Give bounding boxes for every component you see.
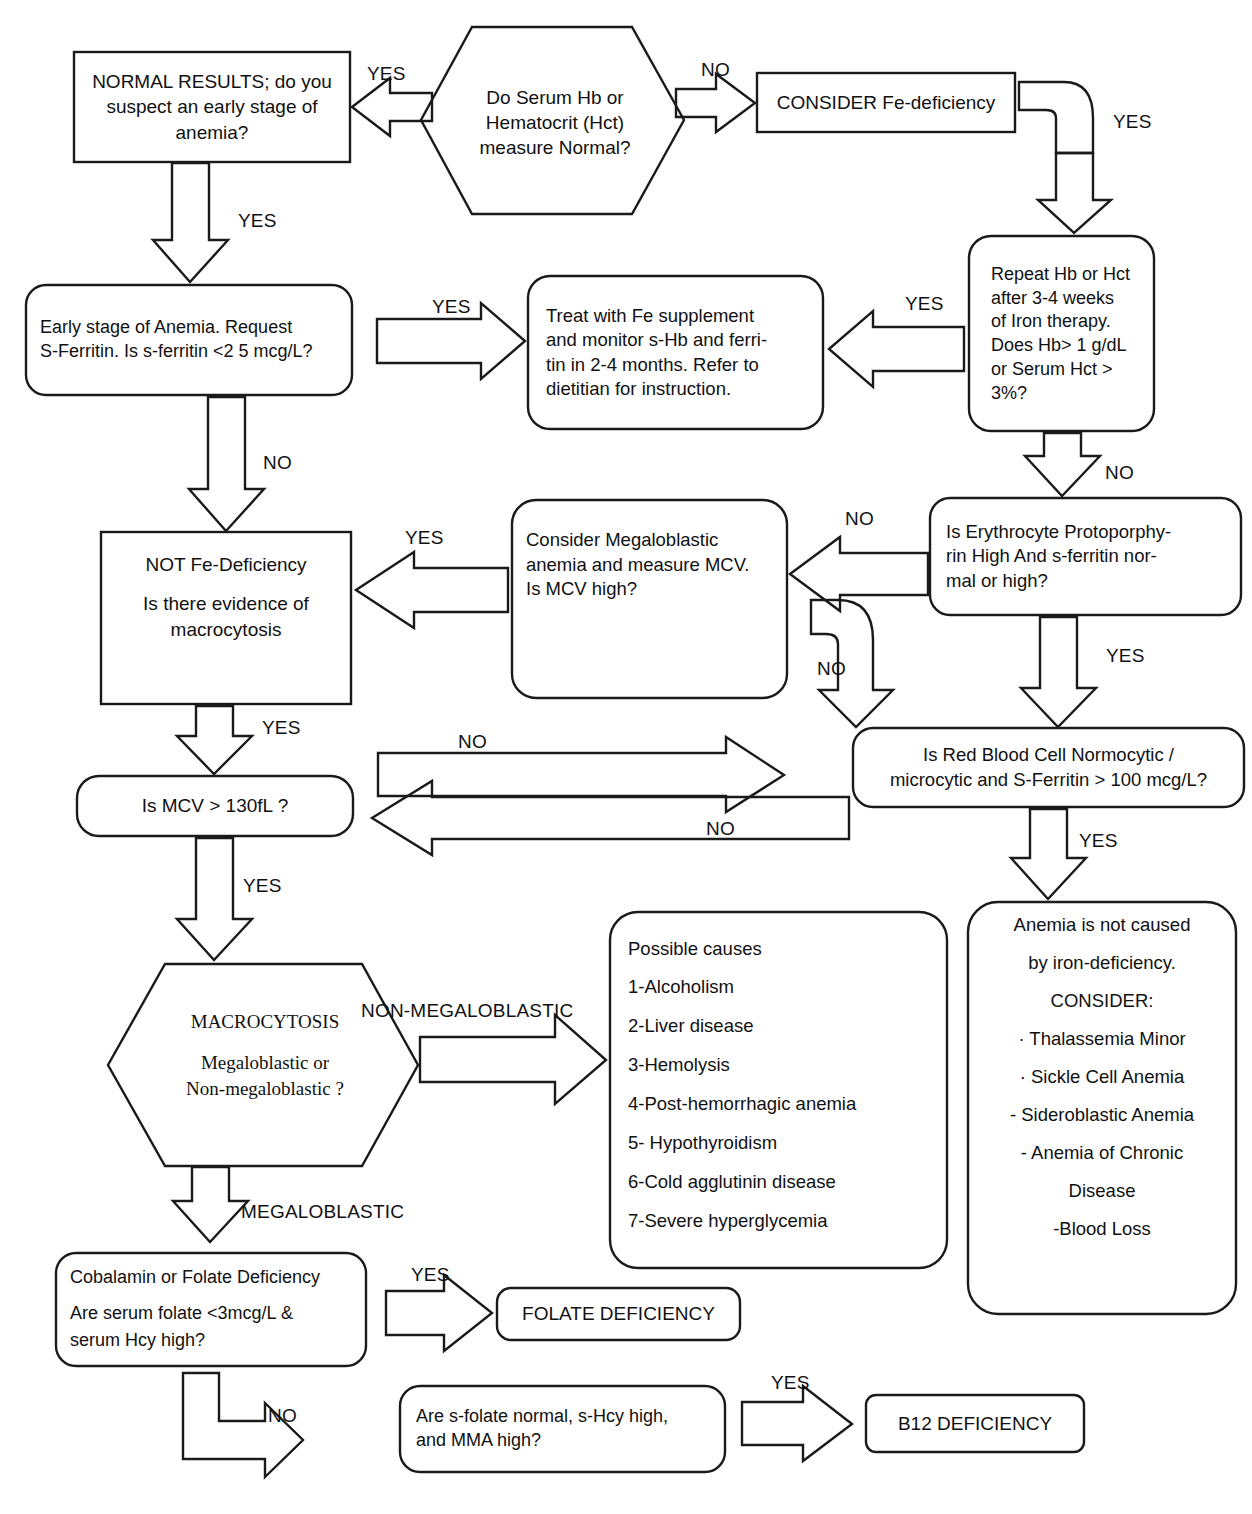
- not-iron-item-3: - Sideroblastic Anemia: [976, 1096, 1228, 1134]
- serum-hb-line-1: Do Serum Hb or: [448, 85, 662, 110]
- treat-fe-line-4: dietitian for instruction.: [546, 377, 815, 401]
- node-normal-results[interactable]: NORMAL RESULTS; do you suspect an early …: [74, 52, 350, 162]
- erythro-line-2: rin High And s-ferritin nor-: [946, 544, 1233, 568]
- cobalamin-line-3: Are serum folate <3mcg/L &: [70, 1300, 358, 1328]
- not-fe-line-1: NOT Fe-Deficiency: [109, 552, 343, 577]
- node-rbc-normocytic[interactable]: Is Red Blood Cell Normocytic / microcyti…: [853, 728, 1244, 807]
- erythro-line-3: mal or high?: [946, 569, 1233, 593]
- edge-label-rbc-to-mcv: NO: [706, 818, 735, 840]
- possible-causes-item-3: 3-Hemolysis: [628, 1046, 939, 1085]
- normal-results-line-1: NORMAL RESULTS; do you: [82, 69, 342, 94]
- consider-fe-line-1: CONSIDER Fe-deficiency: [765, 90, 1007, 115]
- edge-label-megalo-down-to-rbc: NO: [817, 658, 846, 680]
- repeat-hb-line-6: 3%?: [991, 382, 1139, 406]
- not-fe-line-4: macrocytosis: [109, 617, 343, 642]
- node-not-fe-deficiency[interactable]: NOT Fe-Deficiency Is there evidence of m…: [101, 532, 351, 662]
- not-iron-item-5: -Blood Loss: [976, 1210, 1228, 1248]
- arrow-macro-to-causes: [420, 1015, 606, 1104]
- not-iron-item-1: · Thalassemia Minor: [976, 1020, 1228, 1058]
- macrocytosis-line-3: Megaloblastic or: [128, 1050, 402, 1075]
- node-serum-hb[interactable]: Do Serum Hb or Hematocrit (Hct) measure …: [440, 45, 670, 200]
- edge-label-cobalamin-to-sfolate: NO: [268, 1405, 297, 1427]
- sfolate-line-1: Are s-folate normal, s-Hcy high,: [416, 1405, 717, 1429]
- possible-causes-item-1: 1-Alcoholism: [628, 968, 939, 1007]
- possible-causes-item-7: 7-Severe hyperglycemia: [628, 1202, 939, 1241]
- not-iron-line-1: Anemia is not caused: [976, 906, 1228, 944]
- repeat-hb-line-4: Does Hb> 1 g/dL: [991, 334, 1139, 358]
- consider-megalo-line-2: anemia and measure MCV.: [526, 553, 779, 577]
- arrow-macro-to-cobalamin: [173, 1167, 248, 1242]
- node-sfolate[interactable]: Are s-folate normal, s-Hcy high, and MMA…: [400, 1386, 725, 1472]
- node-not-iron-deficiency[interactable]: Anemia is not caused by iron-deficiency.…: [968, 912, 1236, 1242]
- edge-label-repeat-to-erythro: NO: [1105, 462, 1134, 484]
- node-folate-deficiency[interactable]: FOLATE DEFICIENCY: [497, 1288, 740, 1340]
- possible-causes-title: Possible causes: [628, 930, 939, 969]
- possible-causes-item-6: 6-Cold agglutinin disease: [628, 1163, 939, 1202]
- sfolate-line-2: and MMA high?: [416, 1429, 717, 1453]
- edge-label-hex-to-normal: YES: [367, 63, 406, 85]
- node-possible-causes[interactable]: Possible causes 1-Alcoholism 2-Liver dis…: [610, 920, 947, 1250]
- edge-label-erythro-to-megalo: NO: [845, 508, 874, 530]
- edge-label-rbc-to-notiron: YES: [1079, 830, 1118, 852]
- arrow-considerfe-to-repeat-head: [1038, 153, 1111, 233]
- repeat-hb-line-5: or Serum Hct >: [991, 358, 1139, 382]
- edge-label-mcv-to-macro: YES: [243, 875, 282, 897]
- edge-label-repeat-to-treat: YES: [905, 293, 944, 315]
- edge-label-mcv-to-rbc: NO: [458, 731, 487, 753]
- cobalamin-line-4: serum Hcy high?: [70, 1327, 358, 1355]
- arrow-mcv-to-rbc: [378, 737, 784, 812]
- edge-label-cobalamin-to-folate: YES: [411, 1264, 450, 1286]
- serum-hb-line-3: measure Normal?: [448, 135, 662, 160]
- edge-label-sfolate-to-b12: YES: [771, 1372, 810, 1394]
- not-iron-item-4b: Disease: [976, 1172, 1228, 1210]
- node-repeat-hb[interactable]: Repeat Hb or Hct after 3-4 weeks of Iron…: [975, 240, 1147, 428]
- arrow-hex-to-normal: [352, 78, 432, 136]
- arrow-considerfe-to-repeat: [1019, 82, 1093, 153]
- arrow-early-to-notfe: [189, 397, 264, 531]
- arrow-repeat-to-erythro: [1025, 433, 1100, 496]
- not-fe-spacer: [109, 577, 343, 591]
- macrocytosis-line-4: Non-megaloblastic ?: [128, 1076, 402, 1101]
- node-cobalamin-folate[interactable]: Cobalamin or Folate Deficiency Are serum…: [56, 1253, 366, 1366]
- node-erythrocyte[interactable]: Is Erythrocyte Protoporphy- rin High And…: [930, 498, 1241, 615]
- edge-label-considerfe-to-repeat: YES: [1113, 111, 1152, 133]
- consider-megalo-line-3: Is MCV high?: [526, 577, 779, 601]
- early-stage-line-1: Early stage of Anemia. Request: [40, 316, 344, 340]
- arrow-notfe-to-mcv: [177, 706, 252, 774]
- rbc-line-1: Is Red Blood Cell Normocytic /: [861, 743, 1236, 767]
- macrocytosis-spacer: [128, 1034, 402, 1050]
- node-treat-fe[interactable]: Treat with Fe supplement and monitor s-H…: [528, 276, 823, 429]
- treat-fe-line-3: tin in 2-4 months. Refer to: [546, 353, 815, 377]
- node-b12-deficiency[interactable]: B12 DEFICIENCY: [866, 1395, 1084, 1452]
- node-consider-megaloblastic[interactable]: Consider Megaloblastic anemia and measur…: [512, 505, 787, 625]
- node-early-stage[interactable]: Early stage of Anemia. Request S-Ferriti…: [26, 285, 352, 395]
- arrow-rbc-to-notiron: [1011, 809, 1086, 899]
- edge-label-macro-mega: MEGALOBLASTIC: [241, 1201, 404, 1223]
- repeat-hb-line-2: after 3-4 weeks: [991, 287, 1139, 311]
- arrow-mcv-to-macro: [177, 838, 252, 960]
- early-stage-line-2: S-Ferritin. Is s-ferritin <2 5 mcg/L?: [40, 340, 344, 364]
- arrow-cobalamin-to-folate: [386, 1275, 492, 1351]
- folate-deficiency-label: FOLATE DEFICIENCY: [505, 1301, 732, 1326]
- treat-fe-line-1: Treat with Fe supplement: [546, 304, 815, 328]
- arrow-repeat-to-treat: [829, 311, 964, 387]
- cobalamin-spacer: [70, 1292, 358, 1300]
- edge-label-early-to-treat: YES: [432, 296, 471, 318]
- arrow-sfolate-to-b12: [742, 1386, 852, 1461]
- possible-causes-item-2: 2-Liver disease: [628, 1007, 939, 1046]
- not-iron-item-2: · Sickle Cell Anemia: [976, 1058, 1228, 1096]
- treat-fe-line-2: and monitor s-Hb and ferri-: [546, 328, 815, 352]
- node-mcv-130[interactable]: Is MCV > 130fL ?: [77, 776, 353, 836]
- not-iron-consider: CONSIDER:: [976, 982, 1228, 1020]
- edge-label-early-to-notfe: NO: [263, 452, 292, 474]
- possible-causes-item-5: 5- Hypothyroidism: [628, 1124, 939, 1163]
- normal-results-line-3: anemia?: [82, 120, 342, 145]
- edge-label-hex-to-considerfe: NO: [701, 59, 730, 81]
- not-iron-item-4a: - Anemia of Chronic: [976, 1134, 1228, 1172]
- arrow-rbc-to-mcv: [372, 781, 849, 855]
- edge-label-normal-to-early: YES: [238, 210, 277, 232]
- mcv-130-line-1: Is MCV > 130fL ?: [85, 793, 345, 818]
- edge-label-megalo-to-notfe: YES: [405, 527, 444, 549]
- node-consider-fe[interactable]: CONSIDER Fe-deficiency: [757, 73, 1015, 132]
- not-fe-line-3: Is there evidence of: [109, 591, 343, 616]
